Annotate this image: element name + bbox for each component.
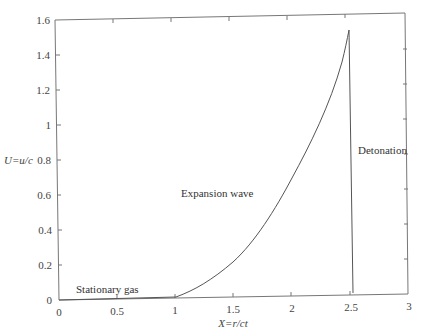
- y-tick-0.6: 0.6: [37, 189, 51, 201]
- x-axis-label: X=r/ct: [217, 317, 248, 329]
- y-tick-1.6: 1.6: [36, 14, 50, 26]
- annotation-detonation: Detonation: [358, 144, 407, 156]
- x-axis-ticks: [113, 14, 350, 299]
- solution-curve: [59, 30, 353, 300]
- y-axis-ticks: [56, 49, 408, 265]
- y-tick-1: 1: [46, 119, 52, 131]
- y-tick-0.4: 0.4: [38, 224, 52, 236]
- y-tick-0.2: 0.2: [38, 259, 52, 271]
- x-tick-2: 2: [289, 302, 295, 314]
- annotation-stationary-gas: Stationary gas: [76, 283, 139, 295]
- x-tick-labels: 0 0.5 1 1.5 2 2.5 3: [56, 300, 412, 318]
- annotation-expansion-wave: Expansion wave: [181, 187, 254, 199]
- chart: 0 0.5 1 1.5 2 2.5 3 0 0.2 0.4 0.6 0.8 1 …: [0, 0, 421, 332]
- x-tick-0.5: 0.5: [110, 305, 124, 317]
- plot-frame: [55, 13, 408, 300]
- y-tick-0.8: 0.8: [37, 154, 51, 166]
- x-tick-3: 3: [406, 300, 412, 312]
- y-axis-label: U=u/c: [4, 154, 33, 166]
- y-tick-1.2: 1.2: [36, 84, 50, 96]
- x-tick-0: 0: [56, 306, 62, 318]
- y-tick-labels: 0 0.2 0.4 0.6 0.8 1 1.2 1.4 1.6: [36, 14, 52, 306]
- x-tick-2.5: 2.5: [344, 301, 358, 313]
- y-tick-0: 0: [47, 294, 53, 306]
- x-tick-1: 1: [172, 304, 178, 316]
- x-tick-1.5: 1.5: [226, 303, 240, 315]
- y-tick-1.4: 1.4: [36, 49, 50, 61]
